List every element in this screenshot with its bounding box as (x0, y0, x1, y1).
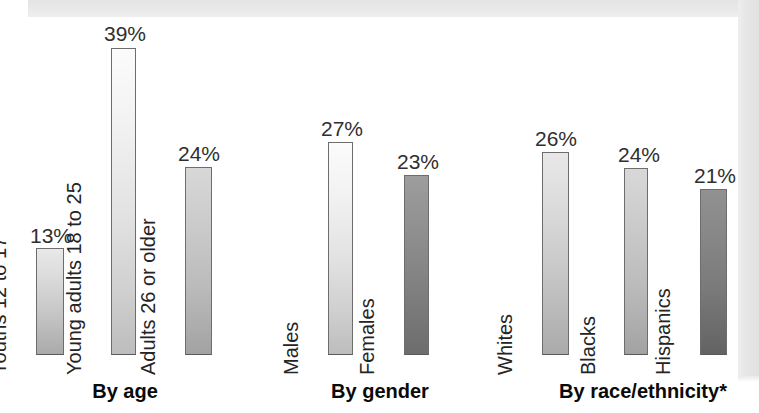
value-label-females: 23% (397, 151, 439, 172)
bar-females (404, 175, 429, 355)
category-label-whites: Whites (495, 314, 515, 375)
category-label-blacks: Blacks (578, 316, 598, 375)
value-label-adults-26-or-older: 24% (178, 143, 220, 164)
plot-area: 13% Youths 12 to 17 39% Young adults 18 … (0, 0, 759, 413)
bar-males (328, 142, 353, 355)
value-label-males: 27% (321, 118, 363, 139)
bar-blacks (624, 168, 648, 355)
bar-young-adults-18-to-25 (111, 48, 136, 355)
chart-canvas: 13% Youths 12 to 17 39% Young adults 18 … (0, 0, 759, 413)
group-caption-by-age: By age (60, 381, 190, 401)
category-label-hispanics: Hispanics (653, 288, 673, 375)
bar-hispanics (700, 189, 727, 355)
category-label-females: Females (357, 298, 377, 375)
bar-adults-26-or-older (185, 167, 212, 355)
category-label-youths-12-to-17: Youths 12 to 17 (0, 237, 9, 375)
bar-youths-12-to-17 (36, 248, 64, 355)
group-caption-by-race-ethnicity: By race/ethnicity* (550, 381, 736, 401)
value-label-hispanics: 21% (694, 165, 736, 186)
value-label-blacks: 24% (618, 144, 660, 165)
category-label-young-adults-18-to-25: Young adults 18 to 25 (64, 182, 84, 375)
group-caption-by-gender: By gender (318, 381, 442, 401)
category-label-adults-26-or-older: Adults 26 or older (138, 218, 158, 375)
value-label-whites: 26% (535, 128, 577, 149)
value-label-young-adults-18-to-25: 39% (104, 23, 146, 44)
bar-whites (542, 152, 569, 355)
category-label-males: Males (281, 322, 301, 375)
